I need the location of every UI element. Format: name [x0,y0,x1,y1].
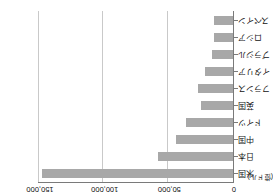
category-label: ロシア [238,29,262,46]
category-row: ドイツ [234,114,275,131]
category-row: 中国 [234,131,275,148]
category-label: 中国 [238,131,254,148]
category-label: イタリア [238,63,270,80]
bar [176,136,233,145]
bar-row [39,46,233,63]
category-row: 英国 [234,97,275,114]
bar [214,34,233,43]
category-row: ブラジル [234,46,275,63]
bar [212,51,233,60]
bar-row [39,148,233,165]
category-label: 英国 [238,97,254,114]
bar-row [39,131,233,148]
bar-row [39,97,233,114]
bar-row [39,165,233,182]
category-label: 米国 [238,165,254,182]
bar [214,17,233,26]
bar [198,85,233,94]
category-row: フランス [234,80,275,97]
category-label: スペイン [238,12,269,29]
category-row: 日本 [234,148,275,165]
bar-chart: 0 50,000 100,000 150,000 (億ドル) 米国日本中国ドイツ… [0,0,275,195]
category-label: ドイツ [238,114,262,131]
rotated-figure-container: 0 50,000 100,000 150,000 (億ドル) 米国日本中国ドイツ… [0,0,275,195]
x-tick-label-3: 150,000 [26,184,53,195]
category-row: スペイン [234,12,275,29]
category-label: 日本 [238,148,254,165]
category-label: フランス [238,80,270,97]
bar [186,119,233,128]
bar [205,68,233,77]
bar-row [39,114,233,131]
x-tick-label-1: 50,000 [158,184,181,195]
category-axis-labels: 米国日本中国ドイツ英国フランスイタリアブラジルロシアスペイン [234,12,275,182]
bar [201,102,233,111]
bar-row [39,80,233,97]
value-axis-tick-labels: 0 50,000 100,000 150,000 [38,183,234,195]
category-row: ロシア [234,29,275,46]
bar [158,153,233,162]
category-row: イタリア [234,63,275,80]
category-row: 米国 [234,165,275,182]
bar-row [39,29,233,46]
bar-row [39,12,233,29]
bar-row [39,63,233,80]
category-label: ブラジル [238,46,270,63]
x-tick-label-2: 100,000 [91,184,118,195]
x-tick-label-0: 0 [232,184,236,195]
bar-series [39,12,233,182]
bar [42,170,233,179]
